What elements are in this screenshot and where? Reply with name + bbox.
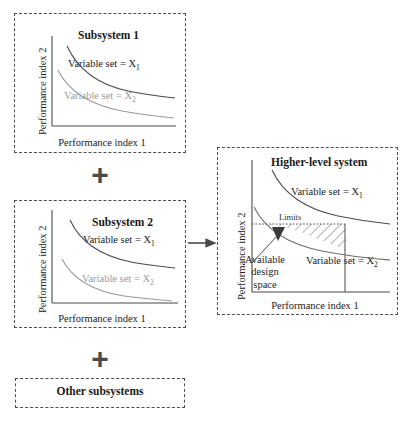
higher-level-limits-label: Limits (279, 213, 301, 222)
available-space-line-2: design (251, 266, 278, 277)
available-space-line-3: space (253, 279, 276, 290)
higher-level-curve-1-text: Variable set = X (291, 186, 359, 197)
figure-root: Performance index 2 Subsystem 1 Variable… (0, 0, 410, 422)
subsystem-2-x-axis-label: Performance index 1 (42, 313, 162, 324)
subsystem-2-curve-2-text: Variable set = X (82, 273, 150, 284)
subsystem-2-curve-1-sub: 1 (151, 239, 155, 248)
subsystem-2-title: Subsystem 2 (92, 216, 153, 228)
higher-level-curve-2-label: Variable set = X2 (306, 255, 378, 269)
other-subsystems-label: Other subsystems (15, 385, 185, 397)
subsystem-1-curve-1-sub: 1 (136, 63, 140, 72)
subsystem-2-curve-1-label: Variable set = X1 (83, 234, 155, 248)
subsystem-1-curve-1-label: Variable set = X1 (68, 58, 140, 72)
subsystem-1-y-axis-label: Performance index 2 (37, 48, 48, 135)
higher-level-curve-1-label: Variable set = X1 (291, 186, 363, 200)
subsystem-2-curve-2-sub: 2 (150, 278, 154, 287)
subsystem-2-curve-1-text: Variable set = X (83, 234, 151, 245)
subsystem-1-x-axis-label: Performance index 1 (42, 137, 162, 148)
higher-level-available-space-label: Available design space (233, 254, 297, 291)
subsystem-2-curve-2-label: Variable set = X2 (82, 273, 154, 287)
higher-level-x-axis-label: Performance index 1 (250, 300, 380, 311)
plus-sign-1: + (80, 160, 120, 190)
subsystem-1-curve-2-text: Variable set = X (64, 90, 132, 101)
higher-level-curve-2-sub: 2 (374, 260, 378, 269)
subsystem-1-curve-1-text: Variable set = X (68, 58, 136, 69)
subsystem-1-curve-2-label: Variable set = X2 (64, 90, 136, 104)
available-space-line-1: Available (245, 254, 285, 265)
subsystem-2-y-axis-label: Performance index 2 (37, 226, 48, 313)
subsystem-1-curve-2-sub: 2 (132, 95, 136, 104)
subsystem-1-title: Subsystem 1 (78, 29, 139, 41)
higher-level-title: Higher-level system (271, 156, 367, 168)
higher-level-curve-2-text: Variable set = X (306, 255, 374, 266)
higher-level-curve-1-sub: 1 (359, 191, 363, 200)
plus-sign-2: + (80, 344, 120, 374)
